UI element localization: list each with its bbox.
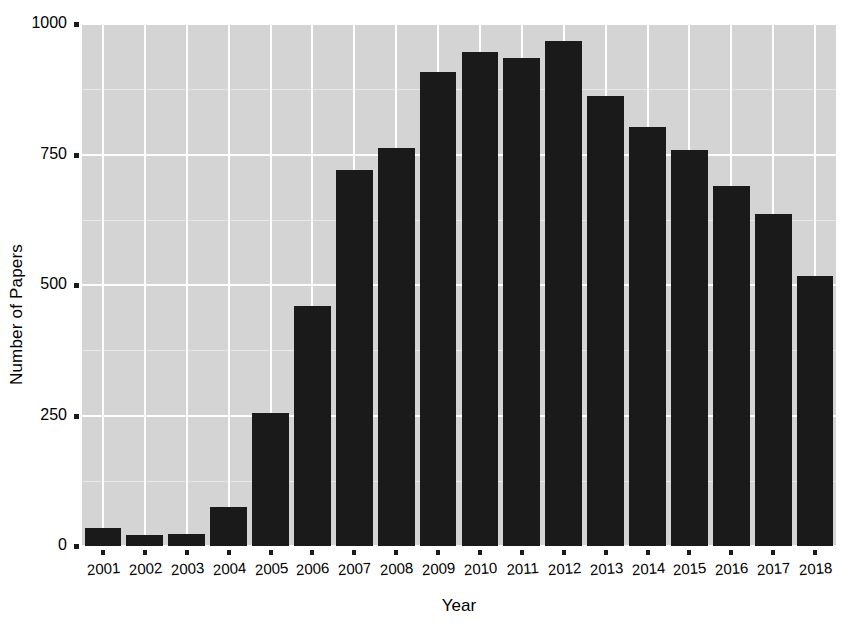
x-axis-title: Year	[82, 596, 836, 616]
gridline-minor-horizontal	[82, 89, 836, 90]
bar-2015[interactable]	[671, 150, 708, 546]
x-tick-label-2006: 2006	[290, 558, 335, 578]
x-tick-mark	[771, 550, 775, 555]
x-tick-mark	[646, 550, 650, 555]
x-tick-mark	[813, 550, 817, 555]
x-tick-mark	[478, 550, 482, 555]
x-tick-label-2013: 2013	[584, 558, 629, 578]
y-axis-title: Number of Papers	[0, 0, 34, 629]
bar-2001[interactable]	[85, 528, 122, 546]
plot-area	[82, 24, 836, 546]
gridline-major-horizontal	[82, 154, 836, 156]
y-tick-mark	[74, 283, 79, 288]
x-tick-label-2003: 2003	[165, 558, 210, 578]
x-tick-mark	[310, 550, 314, 555]
bar-2007[interactable]	[336, 170, 373, 546]
y-tick-label: 750	[0, 145, 67, 163]
x-tick-label-2009: 2009	[416, 558, 461, 578]
x-tick-mark	[562, 550, 566, 555]
x-tick-mark	[520, 550, 524, 555]
x-tick-label-2012: 2012	[542, 558, 587, 578]
bar-chart-figure: Number of Papers 02505007501000200120022…	[0, 0, 858, 629]
y-axis-title-text: Number of Papers	[7, 244, 27, 385]
y-tick-mark	[74, 153, 79, 158]
gridline-major-vertical	[228, 24, 230, 546]
x-tick-mark	[101, 550, 105, 555]
bar-2005[interactable]	[252, 413, 289, 546]
bar-2002[interactable]	[126, 535, 163, 546]
x-tick-mark	[227, 550, 231, 555]
x-tick-label-2008: 2008	[374, 558, 419, 578]
x-tick-mark	[436, 550, 440, 555]
y-tick-label: 500	[0, 275, 67, 293]
bar-2011[interactable]	[503, 58, 540, 546]
x-tick-label-2017: 2017	[751, 558, 796, 578]
x-tick-mark	[185, 550, 189, 555]
x-tick-label-2004: 2004	[207, 558, 252, 578]
gridline-major-vertical	[186, 24, 188, 546]
x-tick-mark	[394, 550, 398, 555]
x-tick-mark	[352, 550, 356, 555]
y-tick-mark	[74, 414, 79, 419]
x-tick-label-2016: 2016	[709, 558, 754, 578]
y-tick-label: 250	[0, 406, 67, 424]
x-tick-mark	[269, 550, 273, 555]
x-tick-mark	[729, 550, 733, 555]
bar-2012[interactable]	[545, 41, 582, 546]
x-tick-label-2010: 2010	[458, 558, 503, 578]
bar-2010[interactable]	[462, 52, 499, 546]
x-tick-label-2011: 2011	[500, 558, 545, 578]
bar-2018[interactable]	[797, 276, 834, 546]
y-tick-mark	[74, 544, 79, 549]
bar-2009[interactable]	[420, 72, 457, 546]
gridline-major-horizontal	[82, 23, 836, 25]
x-tick-label-2014: 2014	[626, 558, 671, 578]
y-tick-label: 0	[0, 536, 67, 554]
bar-2016[interactable]	[713, 186, 750, 546]
bar-2017[interactable]	[755, 214, 792, 547]
x-tick-mark	[604, 550, 608, 555]
bar-2006[interactable]	[294, 306, 331, 546]
x-tick-mark	[687, 550, 691, 555]
gridline-major-vertical	[144, 24, 146, 546]
x-tick-label-2018: 2018	[793, 558, 838, 578]
x-tick-label-2005: 2005	[249, 558, 294, 578]
bar-2014[interactable]	[629, 127, 666, 546]
y-tick-label: 1000	[0, 14, 67, 32]
x-tick-label-2015: 2015	[667, 558, 712, 578]
bar-2013[interactable]	[587, 96, 624, 546]
x-tick-mark	[143, 550, 147, 555]
x-tick-label-2001: 2001	[81, 558, 126, 578]
x-tick-label-2007: 2007	[332, 558, 377, 578]
bar-2003[interactable]	[168, 534, 205, 546]
bar-2008[interactable]	[378, 148, 415, 546]
x-tick-label-2002: 2002	[123, 558, 168, 578]
gridline-major-vertical	[102, 24, 104, 546]
y-tick-mark	[74, 22, 79, 27]
bar-2004[interactable]	[210, 507, 247, 546]
